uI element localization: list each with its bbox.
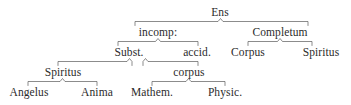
node-ens: Ens xyxy=(211,6,229,18)
node-corpus-lower: corpus xyxy=(173,66,204,78)
node-physic: Physic. xyxy=(208,86,242,98)
node-angelus: Angelus xyxy=(9,86,48,98)
node-spiritus-lower: Spiritus xyxy=(45,66,82,78)
node-anima: Anima xyxy=(81,86,113,98)
brace-subst-to-children xyxy=(58,59,132,66)
tree-diagram: Ens incomp: Completum Subst. accid. Corp… xyxy=(0,0,351,105)
node-corpus-upper: Corpus xyxy=(231,46,265,58)
brace-completum-to-children xyxy=(248,39,312,46)
node-accid: accid. xyxy=(183,46,211,58)
brace-spiritus-to-children xyxy=(28,79,97,86)
brace-corpus-to-children xyxy=(152,79,225,86)
brace-ens-to-children xyxy=(135,19,308,26)
brace-incomp-to-children xyxy=(118,39,198,46)
brace-accid-to-children xyxy=(143,59,198,66)
brace-connector-layer xyxy=(0,0,351,105)
node-mathem: Mathem. xyxy=(131,86,173,98)
node-incomp: incomp: xyxy=(139,26,177,38)
node-completum: Completum xyxy=(252,26,307,38)
node-subst: Subst. xyxy=(114,46,143,58)
node-spiritus-upper: Spiritus xyxy=(303,46,340,58)
